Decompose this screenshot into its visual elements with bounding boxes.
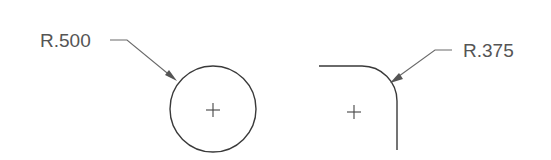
circle-leader	[110, 40, 177, 81]
circle-arrowhead-icon	[165, 70, 177, 81]
fillet-leader	[390, 50, 452, 83]
fillet-feature: R.375	[319, 40, 514, 150]
circle-feature: R.500	[40, 30, 256, 152]
fillet-center-mark-icon	[347, 105, 361, 119]
circle-center-mark-icon	[206, 103, 220, 117]
circle-radius-label: R.500	[40, 30, 91, 51]
fillet-radius-label: R.375	[463, 40, 514, 61]
fillet-outline	[319, 66, 397, 150]
drawing-canvas: R.500 R.375	[0, 0, 551, 160]
